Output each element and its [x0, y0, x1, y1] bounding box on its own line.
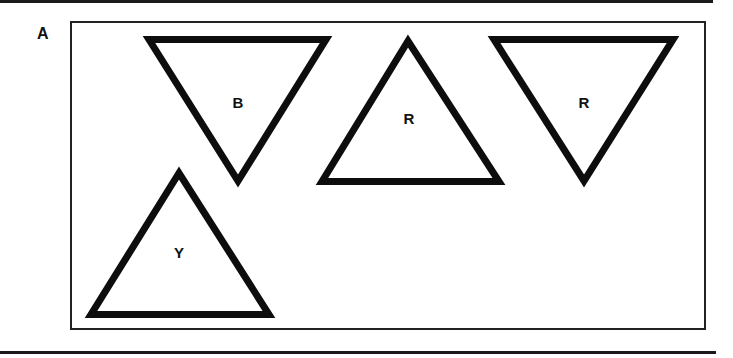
triangle-y: Y: [91, 173, 269, 315]
triangle-r-inverted: R: [494, 40, 673, 182]
triangle-label: Y: [174, 244, 184, 261]
triangle-diagram: B R R Y: [0, 0, 733, 358]
bottom-rule: [0, 351, 716, 354]
triangle-b: B: [149, 40, 326, 182]
triangle-r-upright: R: [322, 41, 499, 182]
triangle-label: R: [579, 94, 590, 111]
triangle-label: B: [233, 94, 244, 111]
triangle-label: R: [404, 110, 415, 127]
